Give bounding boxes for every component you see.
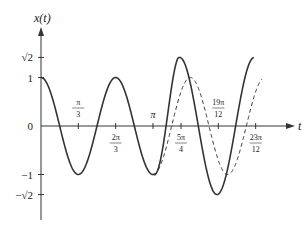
- chart: x(t)t√210−1−√2π32π3π5π419π1223π12: [0, 0, 307, 234]
- x-tick-label-den: 4: [179, 145, 183, 154]
- x-tick-label-den: 12: [214, 110, 222, 119]
- x-axis-label: t: [298, 119, 302, 133]
- y-tick-label: √2: [21, 51, 33, 63]
- x-tick-label-den: 3: [76, 110, 80, 119]
- x-tick-label-num: 2π: [112, 133, 120, 142]
- y-tick-label: 0: [28, 120, 34, 132]
- labels: x(t)t√210−1−√2π32π3π5π419π1223π12: [15, 11, 302, 201]
- chart-svg: x(t)t√210−1−√2π32π3π5π419π1223π12: [0, 0, 307, 234]
- y-tick-label: 1: [28, 72, 34, 84]
- y-tick-label: −1: [21, 169, 33, 181]
- x-tick-label-den: 12: [252, 145, 260, 154]
- x-axis-arrow-icon: [286, 123, 295, 129]
- y-tick-label: −√2: [15, 189, 33, 201]
- y-axis-arrow-icon: [38, 27, 44, 36]
- x-tick-label-num: 23π: [250, 133, 262, 142]
- x-tick-label-den: 3: [114, 145, 118, 154]
- x-tick-label-num: 5π: [177, 133, 185, 142]
- x-tick-label-num: π: [76, 98, 80, 107]
- x-tick-label-num: 19π: [212, 98, 224, 107]
- y-axis-label: x(t): [33, 11, 51, 25]
- x-tick-label: π: [150, 109, 156, 120]
